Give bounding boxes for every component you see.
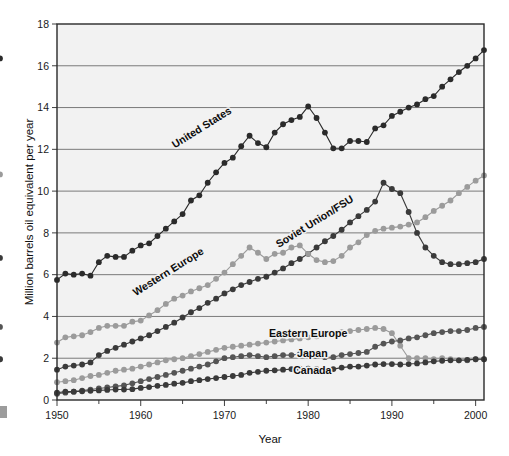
y-tick-label: 12 bbox=[37, 143, 49, 155]
data-point bbox=[238, 143, 244, 149]
data-point bbox=[96, 387, 102, 393]
data-point bbox=[71, 333, 77, 339]
data-point bbox=[297, 256, 303, 262]
data-point bbox=[339, 227, 345, 233]
data-point bbox=[263, 256, 269, 262]
y-tick-label: 18 bbox=[37, 18, 49, 30]
data-point bbox=[255, 250, 261, 256]
data-point bbox=[272, 270, 278, 276]
data-point bbox=[230, 155, 236, 161]
data-point bbox=[414, 355, 420, 361]
data-point bbox=[79, 271, 85, 277]
y-tick-label: 8 bbox=[43, 227, 49, 239]
data-point bbox=[188, 378, 194, 384]
data-point bbox=[163, 324, 169, 330]
y-tick-label: 4 bbox=[43, 310, 49, 322]
data-point bbox=[414, 220, 420, 226]
data-point bbox=[431, 208, 437, 214]
plot-area-background bbox=[57, 24, 484, 400]
data-point bbox=[280, 250, 286, 256]
data-point bbox=[347, 245, 353, 251]
data-point bbox=[381, 326, 387, 332]
data-point bbox=[138, 318, 144, 324]
data-point bbox=[448, 261, 454, 267]
data-point bbox=[414, 102, 420, 108]
data-point bbox=[71, 272, 77, 278]
data-point bbox=[163, 372, 169, 378]
data-point bbox=[155, 233, 161, 239]
data-point bbox=[163, 357, 169, 363]
data-point bbox=[280, 266, 286, 272]
data-point bbox=[356, 138, 362, 144]
data-point bbox=[213, 358, 219, 364]
data-point bbox=[146, 362, 152, 368]
data-point bbox=[238, 343, 244, 349]
data-point bbox=[280, 367, 286, 373]
data-point bbox=[272, 353, 278, 359]
data-point bbox=[247, 352, 253, 358]
data-point bbox=[473, 259, 479, 265]
data-point bbox=[88, 360, 94, 366]
data-point bbox=[397, 338, 403, 344]
data-point bbox=[289, 352, 295, 358]
data-point bbox=[188, 366, 194, 372]
data-point bbox=[289, 117, 295, 123]
data-point bbox=[356, 213, 362, 219]
data-point bbox=[196, 285, 202, 291]
data-point bbox=[255, 341, 261, 347]
data-point bbox=[129, 319, 135, 325]
data-point bbox=[222, 374, 228, 380]
data-point bbox=[406, 105, 412, 111]
data-point bbox=[397, 343, 403, 349]
data-point bbox=[62, 271, 68, 277]
data-point bbox=[238, 372, 244, 378]
data-point bbox=[238, 353, 244, 359]
data-point bbox=[113, 254, 119, 260]
data-point bbox=[255, 353, 261, 359]
data-point bbox=[155, 374, 161, 380]
y-tick-label: 6 bbox=[43, 268, 49, 280]
data-point bbox=[397, 109, 403, 115]
data-point bbox=[263, 340, 269, 346]
data-point bbox=[389, 339, 395, 345]
data-point bbox=[213, 375, 219, 381]
data-point bbox=[297, 114, 303, 120]
data-point bbox=[448, 76, 454, 82]
data-point bbox=[322, 130, 328, 136]
data-point bbox=[113, 345, 119, 351]
x-tick-label: 2000 bbox=[464, 409, 488, 421]
data-point bbox=[422, 245, 428, 251]
data-point bbox=[163, 301, 169, 307]
data-point bbox=[305, 251, 311, 257]
data-point bbox=[456, 190, 462, 196]
x-tick-label: 1970 bbox=[213, 409, 237, 421]
data-point bbox=[238, 282, 244, 288]
data-point bbox=[364, 326, 370, 332]
data-point bbox=[314, 257, 320, 263]
data-point bbox=[138, 385, 144, 391]
data-point bbox=[422, 332, 428, 338]
data-point bbox=[431, 358, 437, 364]
data-point bbox=[180, 315, 186, 321]
data-point bbox=[121, 323, 127, 329]
y-tick-label: 10 bbox=[37, 185, 49, 197]
data-point bbox=[79, 375, 85, 381]
data-point bbox=[322, 238, 328, 244]
data-point bbox=[171, 296, 177, 302]
data-point bbox=[129, 380, 135, 386]
data-point bbox=[205, 349, 211, 355]
data-point bbox=[230, 373, 236, 379]
data-point bbox=[247, 245, 253, 251]
data-point bbox=[389, 361, 395, 367]
data-point bbox=[389, 330, 395, 336]
data-point bbox=[422, 96, 428, 102]
x-axis-title: Year bbox=[258, 433, 281, 445]
data-point bbox=[180, 380, 186, 386]
data-point bbox=[71, 377, 77, 383]
series-label-eastern-europe: Eastern Europe bbox=[269, 327, 347, 339]
data-point bbox=[113, 368, 119, 374]
data-point bbox=[79, 332, 85, 338]
data-point bbox=[431, 253, 437, 259]
series-label-japan: Japan bbox=[297, 347, 328, 359]
data-point bbox=[255, 369, 261, 375]
